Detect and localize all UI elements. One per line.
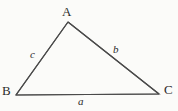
vertex-label-b: B [2,84,11,97]
vertex-label-a: A [62,5,71,18]
edge-ab [16,22,68,95]
triangle-diagram [0,0,178,111]
edge-ac [68,22,159,94]
side-label-c: c [30,49,35,60]
vertex-label-c: C [164,83,173,96]
triangle-figure: A B C c b a [0,0,178,111]
side-label-b: b [113,44,119,55]
side-label-a: a [78,96,84,107]
edge-bc [16,94,159,95]
triangle-outline [16,22,159,95]
